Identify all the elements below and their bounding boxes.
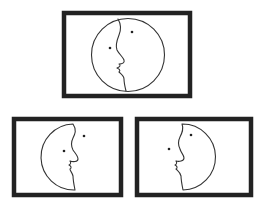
- left-half-eye: [63, 150, 66, 153]
- bottom-left-panel: [14, 119, 121, 195]
- right-half-stray-eye: [168, 148, 171, 151]
- top-right-eye: [131, 31, 134, 34]
- left-half-stray-eye: [83, 135, 86, 138]
- top-panel: [64, 13, 190, 96]
- bottom-left-frame: [14, 119, 121, 195]
- bottom-right-frame: [137, 119, 251, 195]
- top-frame: [64, 13, 190, 96]
- right-half-eye: [190, 134, 193, 137]
- ambiguous-faces-figure: [0, 0, 264, 200]
- bottom-right-panel: [137, 119, 251, 195]
- top-left-eye: [109, 47, 112, 50]
